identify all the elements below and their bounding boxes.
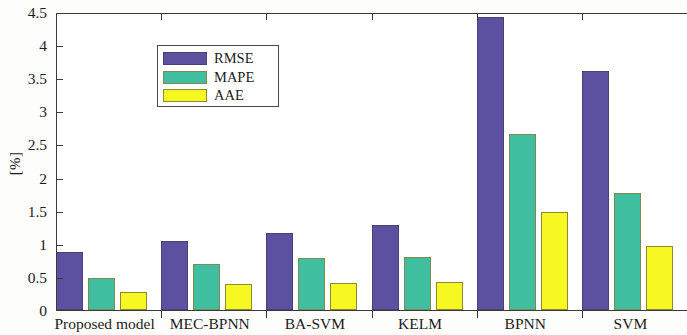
bar-chart-figure: [%] 00.511.522.533.544.5 RMSEMAPEAAE Pro… [0, 0, 687, 335]
bar-mape-kelm [404, 257, 431, 310]
legend-item-mape[interactable]: MAPE [163, 69, 273, 86]
y-axis-tick-label: 4.5 [28, 5, 47, 21]
x-axis-tick-mark-top [372, 13, 373, 20]
bar-rmse-mec-bpnn [161, 241, 188, 310]
legend-item-aae[interactable]: AAE [163, 87, 273, 104]
bar-aae-proposed-model [120, 292, 147, 310]
bar-rmse-proposed-model [56, 252, 83, 310]
bar-mape-mec-bpnn [193, 264, 220, 310]
bar-mape-bpnn [509, 134, 536, 310]
y-axis-tick-mark [56, 278, 63, 279]
x-axis-tick-label: BA-SVM [285, 315, 345, 333]
y-axis-tick-mark [56, 112, 63, 113]
x-axis-tick-mark-top [582, 13, 583, 20]
bar-rmse-ba-svm [266, 233, 293, 310]
chart-legend: RMSEMAPEAAE [157, 45, 279, 107]
x-axis-tick-label: BPNN [505, 315, 546, 333]
x-axis-tick-label: KELM [398, 315, 442, 333]
y-axis-tick-label: 0 [39, 303, 47, 319]
legend-item-rmse[interactable]: RMSE [163, 50, 273, 67]
legend-label: RMSE [214, 51, 254, 66]
x-axis-tick-label: Proposed model [54, 315, 154, 333]
legend-swatch-mape [163, 71, 207, 84]
y-axis: [%] 00.511.522.533.544.5 [0, 0, 56, 335]
y-axis-tick-mark [56, 46, 63, 47]
x-axis-tick-mark [372, 311, 373, 318]
y-axis-tick-label: 0.5 [28, 270, 47, 286]
x-axis-tick-mark [161, 311, 162, 318]
y-axis-tick-label: 1.5 [28, 204, 47, 220]
y-axis-tick-mark [56, 245, 63, 246]
x-axis-tick-mark [266, 311, 267, 318]
y-axis-tick-mark [56, 13, 63, 14]
plot-area: RMSEMAPEAAE [56, 13, 687, 311]
x-axis-tick-label: MEC-BPNN [170, 315, 250, 333]
x-axis-tick-mark-top [477, 13, 478, 20]
bar-mape-ba-svm [298, 258, 325, 310]
x-axis-tick-mark [582, 311, 583, 318]
legend-swatch-rmse [163, 52, 207, 65]
y-axis-title: [%] [7, 141, 24, 187]
bar-aae-svm [646, 246, 673, 310]
y-axis-tick-mark [56, 79, 63, 80]
y-axis-tick-mark [56, 179, 63, 180]
bar-aae-bpnn [541, 212, 568, 310]
bar-rmse-svm [582, 71, 609, 310]
y-axis-tick-label: 2 [39, 171, 47, 187]
legend-label: MAPE [214, 70, 254, 85]
bar-rmse-kelm [372, 225, 399, 310]
x-axis-tick-mark-top [161, 13, 162, 20]
x-axis-tick-mark [477, 311, 478, 318]
y-axis-tick-label: 3 [39, 105, 47, 121]
y-axis-tick-mark [56, 212, 63, 213]
y-axis-tick-label: 4 [39, 38, 47, 54]
x-axis-tick-label: SVM [614, 315, 648, 333]
y-axis-tick-label: 2.5 [28, 138, 47, 154]
y-axis-tick-mark [56, 145, 63, 146]
bar-aae-ba-svm [330, 283, 357, 310]
bar-mape-proposed-model [88, 278, 115, 310]
y-axis-tick-label: 1 [39, 237, 47, 253]
legend-swatch-aae [163, 89, 207, 102]
bar-mape-svm [614, 193, 641, 310]
bar-rmse-bpnn [477, 17, 504, 310]
legend-label: AAE [214, 88, 244, 103]
x-axis-tick-mark-top [266, 13, 267, 20]
y-axis-tick-label: 3.5 [28, 71, 47, 87]
bar-aae-kelm [436, 282, 463, 310]
bar-aae-mec-bpnn [225, 284, 252, 310]
